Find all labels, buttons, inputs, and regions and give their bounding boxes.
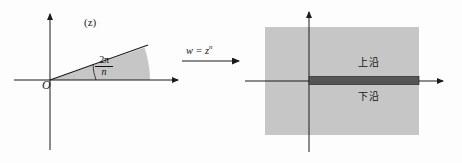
mapping-exponent: n: [209, 43, 213, 51]
z-plane-panel: (z) O 2π n: [0, 0, 231, 163]
angle-numerator: 2π: [91, 55, 117, 66]
mapping-lhs: w: [186, 45, 193, 56]
angle-denominator: n: [91, 67, 117, 78]
z-plane-origin-label: O: [42, 78, 51, 93]
mapping-equals: =: [196, 45, 202, 56]
conformal-mapping-figure: (z) O 2π n w=zn: [0, 0, 462, 163]
z-plane-graphic: [0, 0, 231, 163]
z-plane-angle-label: 2π n: [91, 55, 117, 77]
w-plane-slit-branch-cut: [309, 77, 419, 85]
w-plane-graphic: [231, 0, 462, 163]
upper-edge-label: 上沿: [358, 54, 379, 69]
mapping-equation: w=zn: [186, 43, 213, 56]
w-plane-panel: (w) O: [231, 0, 462, 163]
z-plane-label: (z): [84, 16, 96, 28]
lower-edge-label: 下沿: [358, 88, 379, 103]
